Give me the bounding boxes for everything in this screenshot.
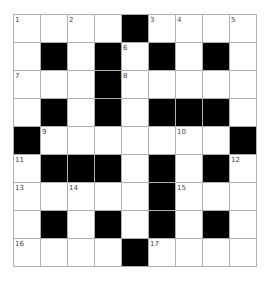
block-cell [95, 211, 122, 239]
letter-cell[interactable] [203, 239, 230, 267]
letter-cell[interactable]: 17 [149, 239, 176, 267]
letter-cell[interactable]: 13 [14, 183, 41, 211]
clue-number: 10 [177, 128, 186, 136]
letter-cell[interactable] [122, 183, 149, 211]
letter-cell[interactable] [176, 71, 203, 99]
clue-number: 15 [177, 184, 186, 192]
letter-cell[interactable] [122, 99, 149, 127]
clue-number: 1 [15, 16, 19, 24]
letter-cell[interactable] [149, 71, 176, 99]
clue-number: 8 [123, 72, 127, 80]
block-cell [95, 43, 122, 71]
letter-cell[interactable] [95, 239, 122, 267]
clue-number: 4 [177, 16, 181, 24]
letter-cell[interactable] [14, 211, 41, 239]
letter-cell[interactable]: 1 [14, 15, 41, 43]
block-cell [176, 99, 203, 127]
block-cell [95, 99, 122, 127]
block-cell [95, 155, 122, 183]
letter-cell[interactable] [41, 183, 68, 211]
block-cell [122, 239, 149, 267]
letter-cell[interactable]: 5 [230, 15, 257, 43]
block-cell [149, 99, 176, 127]
block-cell [149, 211, 176, 239]
block-cell [203, 99, 230, 127]
letter-cell[interactable] [41, 15, 68, 43]
letter-cell[interactable] [122, 155, 149, 183]
block-cell [149, 183, 176, 211]
clue-number: 12 [231, 156, 240, 164]
letter-cell[interactable] [122, 211, 149, 239]
letter-cell[interactable] [14, 99, 41, 127]
clue-number: 11 [15, 156, 24, 164]
letter-cell[interactable] [230, 71, 257, 99]
block-cell [149, 43, 176, 71]
letter-cell[interactable]: 6 [122, 43, 149, 71]
letter-cell[interactable] [68, 71, 95, 99]
letter-cell[interactable]: 16 [14, 239, 41, 267]
letter-cell[interactable]: 15 [176, 183, 203, 211]
letter-cell[interactable]: 14 [68, 183, 95, 211]
letter-cell[interactable] [176, 239, 203, 267]
clue-number: 6 [123, 44, 127, 52]
clue-number: 5 [231, 16, 235, 24]
block-cell [41, 99, 68, 127]
clue-number: 7 [15, 72, 19, 80]
block-cell [41, 211, 68, 239]
letter-cell[interactable]: 7 [14, 71, 41, 99]
letter-cell[interactable] [68, 239, 95, 267]
clue-number: 3 [150, 16, 154, 24]
letter-cell[interactable] [95, 183, 122, 211]
letter-cell[interactable] [41, 71, 68, 99]
letter-cell[interactable] [14, 43, 41, 71]
clue-number: 9 [42, 128, 46, 136]
block-cell [203, 43, 230, 71]
letter-cell[interactable] [203, 71, 230, 99]
letter-cell[interactable] [176, 211, 203, 239]
letter-cell[interactable] [95, 15, 122, 43]
letter-cell[interactable] [203, 127, 230, 155]
letter-cell[interactable] [176, 43, 203, 71]
block-cell [203, 211, 230, 239]
letter-cell[interactable] [149, 127, 176, 155]
letter-cell[interactable] [95, 127, 122, 155]
letter-cell[interactable] [68, 211, 95, 239]
block-cell [41, 43, 68, 71]
letter-cell[interactable] [41, 239, 68, 267]
letter-cell[interactable] [230, 43, 257, 71]
clue-number: 13 [15, 184, 24, 192]
clue-number: 14 [69, 184, 78, 192]
block-cell [149, 155, 176, 183]
letter-cell[interactable] [203, 183, 230, 211]
letter-cell[interactable]: 9 [41, 127, 68, 155]
crossword-grid: 1234567891011121314151617 [13, 14, 257, 267]
letter-cell[interactable] [68, 127, 95, 155]
letter-cell[interactable] [230, 183, 257, 211]
letter-cell[interactable]: 12 [230, 155, 257, 183]
letter-cell[interactable] [230, 99, 257, 127]
letter-cell[interactable]: 11 [14, 155, 41, 183]
letter-cell[interactable] [230, 239, 257, 267]
letter-cell[interactable] [230, 211, 257, 239]
clue-number: 17 [150, 240, 159, 248]
letter-cell[interactable]: 3 [149, 15, 176, 43]
letter-cell[interactable] [122, 127, 149, 155]
block-cell [68, 155, 95, 183]
block-cell [41, 155, 68, 183]
clue-number: 16 [15, 240, 24, 248]
letter-cell[interactable]: 8 [122, 71, 149, 99]
letter-cell[interactable] [68, 99, 95, 127]
letter-cell[interactable]: 4 [176, 15, 203, 43]
letter-cell[interactable] [176, 155, 203, 183]
letter-cell[interactable]: 10 [176, 127, 203, 155]
block-cell [122, 15, 149, 43]
block-cell [95, 71, 122, 99]
clue-number: 2 [69, 16, 73, 24]
letter-cell[interactable]: 2 [68, 15, 95, 43]
block-cell [230, 127, 257, 155]
letter-cell[interactable] [203, 15, 230, 43]
letter-cell[interactable] [68, 43, 95, 71]
block-cell [14, 127, 41, 155]
block-cell [203, 155, 230, 183]
